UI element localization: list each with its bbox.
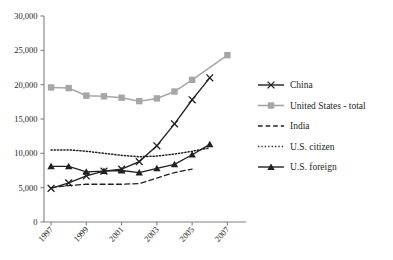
y-tick-label: 25,000 bbox=[14, 45, 37, 55]
legend-square-marker bbox=[268, 102, 274, 108]
legend-item-china[interactable]: China bbox=[258, 80, 313, 90]
y-tick-label: 30,000 bbox=[14, 11, 37, 21]
legend-label: U.S. citizen bbox=[290, 142, 335, 152]
data-point-marker bbox=[48, 84, 54, 90]
data-point-marker bbox=[171, 161, 178, 168]
data-point-marker bbox=[48, 185, 55, 192]
x-tick-label: 2007 bbox=[212, 225, 231, 244]
line-chart: 05,00010,00015,00020,00025,00030,000 199… bbox=[0, 0, 393, 260]
legend-label: India bbox=[290, 121, 310, 131]
data-point-marker bbox=[65, 85, 71, 91]
data-point-marker bbox=[189, 77, 195, 83]
data-point-marker bbox=[83, 92, 89, 98]
y-tick-label: 10,000 bbox=[14, 148, 37, 158]
legend-label: United States - total bbox=[290, 101, 366, 111]
legend-label: U.S. foreign bbox=[290, 162, 337, 172]
chart-legend: ChinaUnited States - totalIndiaU.S. citi… bbox=[258, 80, 366, 172]
x-tick-label: 2001 bbox=[107, 225, 126, 244]
data-point-marker bbox=[206, 74, 213, 81]
y-axis: 05,00010,00015,00020,00025,00030,000 bbox=[14, 11, 44, 227]
data-series-group bbox=[47, 52, 230, 192]
data-point-marker bbox=[206, 141, 213, 148]
x-tick-label: 2003 bbox=[142, 225, 161, 244]
legend-label: China bbox=[290, 80, 313, 90]
legend-item-u-s-foreign[interactable]: U.S. foreign bbox=[258, 162, 337, 172]
y-tick-label: 0 bbox=[33, 217, 37, 227]
series-china bbox=[48, 74, 214, 191]
y-tick-label: 15,000 bbox=[14, 114, 37, 124]
series-line bbox=[51, 144, 210, 172]
series-u-s-citizen bbox=[51, 148, 210, 157]
data-point-marker bbox=[136, 98, 142, 104]
y-tick-label: 20,000 bbox=[14, 80, 37, 90]
data-point-marker bbox=[154, 95, 160, 101]
series-line bbox=[51, 55, 227, 101]
series-united-states-total bbox=[48, 52, 231, 104]
data-point-marker bbox=[118, 95, 124, 101]
series-line bbox=[51, 148, 210, 157]
legend-item-u-s-citizen[interactable]: U.S. citizen bbox=[258, 142, 335, 152]
legend-item-india[interactable]: India bbox=[258, 121, 310, 131]
x-tick-label: 2005 bbox=[177, 225, 196, 244]
data-point-marker bbox=[101, 93, 107, 99]
data-point-marker bbox=[136, 158, 143, 165]
x-tick-label: 1999 bbox=[71, 225, 90, 244]
data-point-marker bbox=[153, 142, 160, 149]
data-point-marker bbox=[224, 52, 230, 58]
y-tick-label: 5,000 bbox=[18, 183, 37, 193]
data-point-marker bbox=[171, 120, 178, 127]
x-tick-label: 1997 bbox=[36, 225, 55, 244]
x-axis: 199719992001200320052007 bbox=[36, 222, 246, 244]
legend-item-united-states-total[interactable]: United States - total bbox=[258, 101, 366, 111]
data-point-marker bbox=[171, 88, 177, 94]
data-point-marker bbox=[189, 96, 196, 103]
chart-container: 05,00010,00015,00020,00025,00030,000 199… bbox=[0, 0, 393, 260]
